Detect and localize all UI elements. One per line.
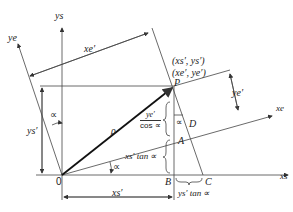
ye-over-cos-label: ye′ cos ∝	[140, 111, 161, 130]
point-c-label: C	[205, 177, 212, 187]
origin-label: 0	[56, 177, 62, 187]
alpha-d-label: ∝	[176, 118, 182, 127]
xs-prime-label: xs′	[112, 188, 123, 198]
rho-label: ρ	[111, 126, 116, 136]
xs-tan-label: xs′ tan ∝	[125, 152, 156, 161]
ye-axis-label: ye	[8, 33, 17, 43]
point-b-label: B	[165, 177, 171, 187]
ys-axis-label: ys	[55, 11, 63, 21]
xs-axis-label: xs	[280, 172, 288, 181]
ye-prime-label: ye′	[232, 88, 243, 98]
coord-label-s: (xs′, ys′)	[172, 56, 205, 66]
alpha-bottom-label: ∝	[113, 162, 120, 172]
xe-axis	[62, 116, 272, 175]
point-a-label: A	[178, 136, 184, 146]
ys-prime-label: ys′	[27, 126, 38, 136]
xe-axis-label: xe	[276, 104, 284, 113]
ys-tan-label: ys′ tan ∝	[178, 189, 209, 198]
point-p-label: P	[174, 78, 180, 88]
diagram-canvas	[0, 0, 293, 212]
alpha-top-label: ∝	[50, 110, 57, 120]
xe-prime-label: xe′	[84, 44, 95, 54]
point-d-label: D	[189, 119, 196, 129]
